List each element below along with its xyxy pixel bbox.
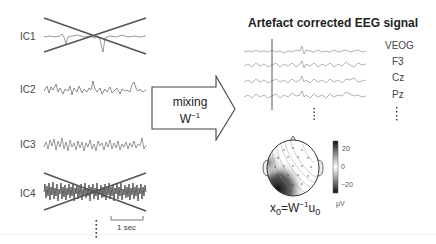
channel-label-pz: Pz [392, 89, 404, 100]
channel-label-cz: Cz [392, 72, 404, 83]
eeg-traces [240, 36, 380, 126]
colorbar-tick-0: 0 [341, 163, 345, 170]
colorbar-unit: μV [336, 200, 345, 207]
ic-traces [0, 0, 150, 244]
mixing-label: mixing [156, 95, 224, 109]
colorbar-tick-minus20: −20 [341, 181, 353, 188]
time-scale-bar [111, 216, 143, 220]
channel-label-veog: VEOG [385, 40, 414, 51]
veog-trace [244, 46, 366, 54]
matrix-inverse-sup: −1 [191, 111, 200, 120]
scale-bar-label: 1 sec [117, 223, 136, 232]
pz-trace [244, 91, 366, 98]
formula-eq: =W [281, 201, 299, 215]
colorbar-tick-20: 20 [342, 145, 350, 152]
panel-title: Artefact corrected EEG signal [248, 16, 418, 30]
reconstruction-formula: x0=W−1u0 [270, 200, 320, 217]
matrix-w: W [180, 112, 191, 126]
ic2-trace [44, 81, 146, 95]
f3-trace [244, 61, 366, 68]
scalp-topomap [262, 133, 324, 199]
ellipsis-dots-icon [394, 105, 400, 125]
unmixing-matrix-label: W−1 [156, 111, 224, 126]
ellipsis-dots-icon [314, 108, 315, 120]
ellipsis-dots-icon [96, 220, 98, 238]
formula-u-sub: 0 [315, 207, 320, 217]
ic3-trace [44, 138, 146, 151]
channel-label-f3: F3 [392, 56, 404, 67]
colorbar [332, 140, 340, 194]
cz-trace [244, 76, 366, 83]
